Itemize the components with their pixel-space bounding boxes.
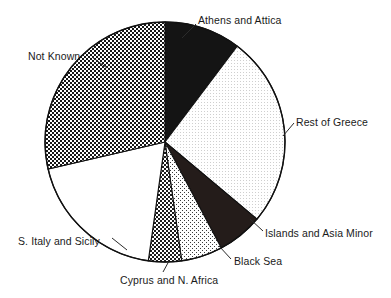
pie-label-athens-and-attica: Athens and Attica (198, 14, 281, 26)
pie-label-s-italy-and-sicily: S. Italy and Sicily (18, 235, 100, 247)
pie-chart-canvas (0, 0, 391, 298)
pie-label-islands-and-asia-minor: Islands and Asia Minor (265, 227, 373, 239)
pie-label-rest-of-greece: Rest of Greece (296, 116, 368, 128)
pie-chart: Athens and Attica Rest of Greece Islands… (0, 0, 391, 298)
pie-label-cyprus-and-n-africa: Cyprus and N. Africa (120, 274, 218, 286)
pie-slices-group (45, 22, 285, 262)
pie-label-black-sea: Black Sea (234, 255, 282, 267)
leader-line-blacksea (219, 246, 231, 259)
pie-label-not-known: Not Known (28, 50, 80, 62)
